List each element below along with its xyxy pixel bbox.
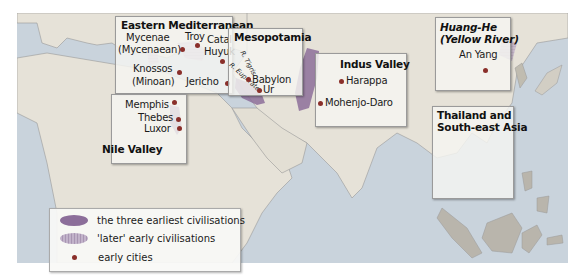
dark-purple-blob-icon [60,215,88,226]
region-title-line1: Thailand and [437,109,511,121]
region-mesopotamia: Mesopotamia R. Tigris R. Euphrates Babyl… [228,28,303,96]
city-label-luxor: Luxor [144,123,171,134]
city-label-jericho: Jericho [186,76,219,87]
city-dot-troy [195,43,200,48]
region-title-line2: South-east Asia [437,121,527,133]
city-label-mycenaean: (Mycenaean) [118,44,181,55]
region-indus-valley: Indus Valley Harappa Mohenjo-Daro [315,53,407,127]
city-label-an-yang: An Yang [459,49,498,60]
legend-label: the three earliest civilisations [97,215,245,226]
city-label-mycenae: Mycenae [126,32,169,43]
city-dot-an-yang [483,68,488,73]
city-dot-babylon [246,77,251,82]
region-title-line1: Huang-He [440,21,497,33]
city-label-troy: Troy [185,31,205,42]
region-title: Nile Valley [102,143,162,155]
legend-item-cities: early cities [50,252,153,263]
city-label-minoan: (Minoan) [132,76,175,87]
city-dot-ur [257,88,262,93]
city-label-harappa: Harappa [346,75,387,86]
region-title: Mesopotamia [234,31,311,43]
city-dot-thebes [176,117,181,122]
red-dot-icon [72,255,77,260]
legend-item-earliest: the three earliest civilisations [50,215,245,226]
legend-label: 'later' early civilisations [97,233,215,244]
city-dot-catal-huyuk [220,59,225,64]
region-huang-he: Huang-He (Yellow River) An Yang [435,17,511,91]
city-dot-knossos [177,70,182,75]
map-legend: the three earliest civilisations 'later'… [49,208,241,272]
region-title: Indus Valley [340,58,410,70]
region-nile-valley: Memphis Thebes Luxor Nile Valley [111,94,187,164]
city-dot-mohenjo-daro [318,101,323,106]
city-dot-harappa [339,79,344,84]
city-dot-luxor [177,126,182,131]
legend-label: early cities [98,252,153,263]
region-thailand-south-east-asia: Thailand and South-east Asia [432,106,514,199]
city-label-memphis: Memphis [125,99,169,110]
light-hatched-blob-icon [60,233,88,244]
region-title-line2: (Yellow River) [440,33,519,45]
city-label-thebes: Thebes [138,112,173,123]
city-label-knossos: Knossos [133,63,172,74]
city-label-mohenjo-daro: Mohenjo-Daro [325,97,393,108]
region-eastern-mediterranean: Eastern Mediterranean Mycenae (Mycenaean… [115,16,233,94]
city-dot-mycenae [180,47,185,52]
legend-item-later: 'later' early civilisations [50,233,215,244]
city-dot-memphis [172,100,177,105]
city-label-ur: Ur [263,84,274,95]
